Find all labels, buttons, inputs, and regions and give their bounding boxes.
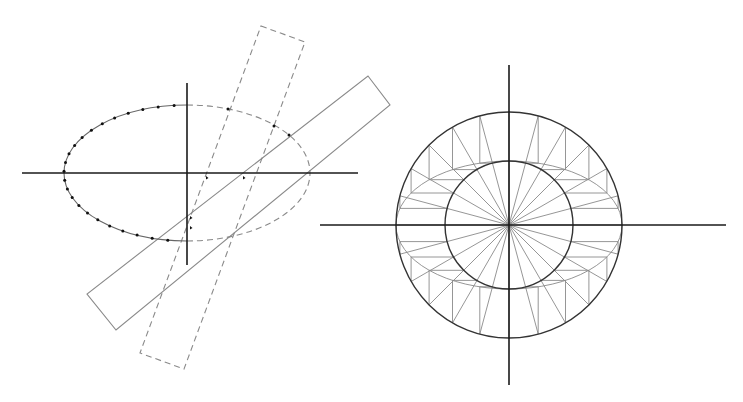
radial-line bbox=[400, 196, 509, 225]
plotted-point bbox=[273, 125, 276, 128]
diagram-svg bbox=[0, 0, 743, 402]
plotted-point bbox=[157, 105, 160, 108]
dashed-trammel-strip bbox=[140, 26, 305, 369]
radial-line bbox=[509, 225, 618, 254]
plotted-point bbox=[127, 112, 130, 115]
plotted-point bbox=[227, 108, 230, 111]
radial-line bbox=[411, 225, 509, 282]
trammel-mark bbox=[190, 226, 193, 230]
plotted-point bbox=[81, 136, 84, 139]
radial-line bbox=[453, 127, 510, 225]
radial-line bbox=[509, 196, 618, 225]
radial-line bbox=[480, 116, 509, 225]
radial-line bbox=[429, 145, 509, 225]
radial-line bbox=[509, 145, 589, 225]
trammel-mark bbox=[243, 176, 246, 180]
plotted-point bbox=[288, 134, 291, 137]
radial-line bbox=[509, 116, 538, 225]
radial-line bbox=[480, 225, 509, 334]
plotted-point bbox=[64, 161, 67, 164]
plotted-point bbox=[68, 152, 71, 155]
plotted-point bbox=[121, 230, 124, 233]
plotted-point bbox=[151, 237, 154, 240]
trammel-strips bbox=[87, 26, 390, 369]
plotted-point bbox=[173, 104, 176, 107]
plotted-point bbox=[66, 187, 69, 190]
plotted-point bbox=[136, 234, 139, 237]
radial-line bbox=[400, 225, 509, 254]
plotted-point bbox=[63, 179, 66, 182]
plotted-point bbox=[108, 224, 111, 227]
trammel-ellipse-figure bbox=[22, 26, 390, 369]
radial-line bbox=[453, 225, 510, 323]
trammel-mark bbox=[190, 216, 193, 220]
radial-line bbox=[509, 169, 607, 226]
plotted-point bbox=[96, 218, 99, 221]
radial-line bbox=[411, 169, 509, 226]
trammel-mark bbox=[206, 176, 209, 180]
plotted-point bbox=[166, 239, 169, 242]
radial-line bbox=[429, 225, 509, 305]
left-axes bbox=[22, 83, 358, 265]
plotted-point bbox=[73, 144, 76, 147]
radial-line bbox=[509, 225, 566, 323]
diagram-canvas bbox=[0, 0, 743, 402]
plotted-point bbox=[101, 122, 104, 125]
plotted-point bbox=[90, 129, 93, 132]
solid-trammel-strip bbox=[87, 76, 390, 330]
plotted-point bbox=[141, 108, 144, 111]
plotted-point bbox=[86, 212, 89, 215]
plotted-point bbox=[71, 196, 74, 199]
radial-line bbox=[509, 225, 538, 334]
plotted-point bbox=[113, 117, 116, 120]
radial-line bbox=[509, 127, 566, 225]
plotted-point bbox=[63, 170, 66, 173]
radial-line bbox=[509, 225, 589, 305]
plotted-point bbox=[77, 204, 80, 207]
radial-line bbox=[509, 225, 607, 282]
